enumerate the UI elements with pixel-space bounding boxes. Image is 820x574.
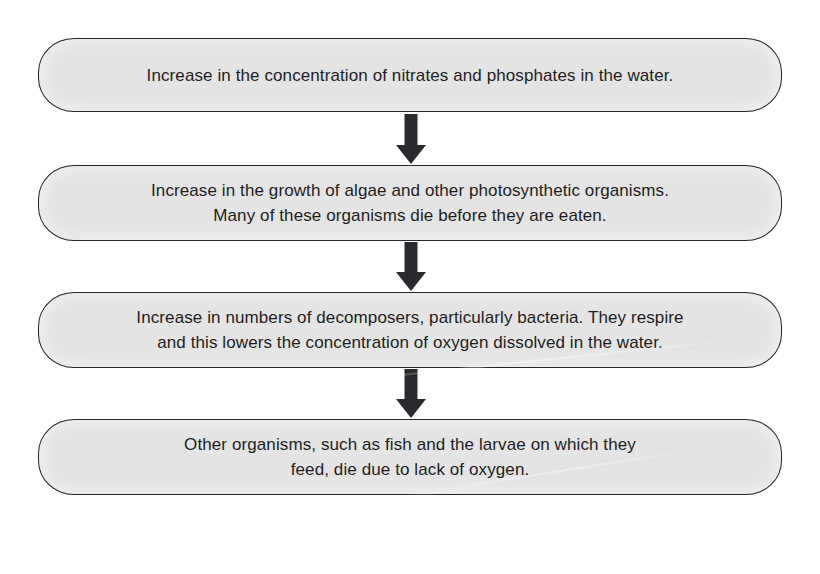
flow-step-box-2: Increase in the growth of algae and othe… <box>38 165 782 241</box>
flow-step-text-2: Increase in the growth of algae and othe… <box>65 178 755 228</box>
flow-step-text-3: Increase in numbers of decomposers, part… <box>65 305 755 355</box>
flow-step-box-4: Other organisms, such as fish and the la… <box>38 419 782 495</box>
down-arrow-icon <box>396 242 426 291</box>
flow-step-box-3: Increase in numbers of decomposers, part… <box>38 292 782 368</box>
flow-step-box-1: Increase in the concentration of nitrate… <box>38 38 782 112</box>
down-arrow-icon <box>396 114 426 164</box>
down-arrow-icon <box>396 369 426 418</box>
flowchart-canvas: Increase in the concentration of nitrate… <box>0 0 820 574</box>
flow-step-text-1: Increase in the concentration of nitrate… <box>65 63 755 88</box>
flow-step-text-4: Other organisms, such as fish and the la… <box>65 432 755 482</box>
